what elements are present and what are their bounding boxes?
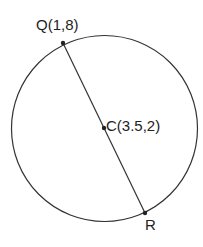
point-q xyxy=(61,41,65,45)
label-c: C(3.5,2) xyxy=(106,117,160,134)
label-q: Q(1,8) xyxy=(36,16,79,33)
label-r: R xyxy=(145,216,156,233)
circle-diagram: Q(1,8) C(3.5,2) R xyxy=(0,0,203,247)
point-r xyxy=(143,211,147,215)
